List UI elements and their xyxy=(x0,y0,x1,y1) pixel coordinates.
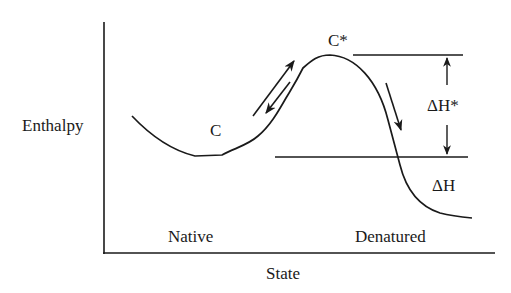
y-axis-label: Enthalpy xyxy=(22,116,84,135)
activation-enthalpy-label: ΔH* xyxy=(427,96,459,115)
denatured-state-label: Denatured xyxy=(355,227,426,246)
forward-arrow-icon xyxy=(253,61,294,116)
enthalpy-diagram: Enthalpy State Native Denatured C C* ΔH*… xyxy=(0,0,511,293)
native-state-label: Native xyxy=(168,227,213,246)
transition-state-label: C* xyxy=(328,31,348,50)
x-axis-label: State xyxy=(266,264,300,283)
native-conformation-label: C xyxy=(210,121,221,140)
enthalpy-curve xyxy=(132,55,472,218)
reaction-enthalpy-label: ΔH xyxy=(432,176,455,195)
